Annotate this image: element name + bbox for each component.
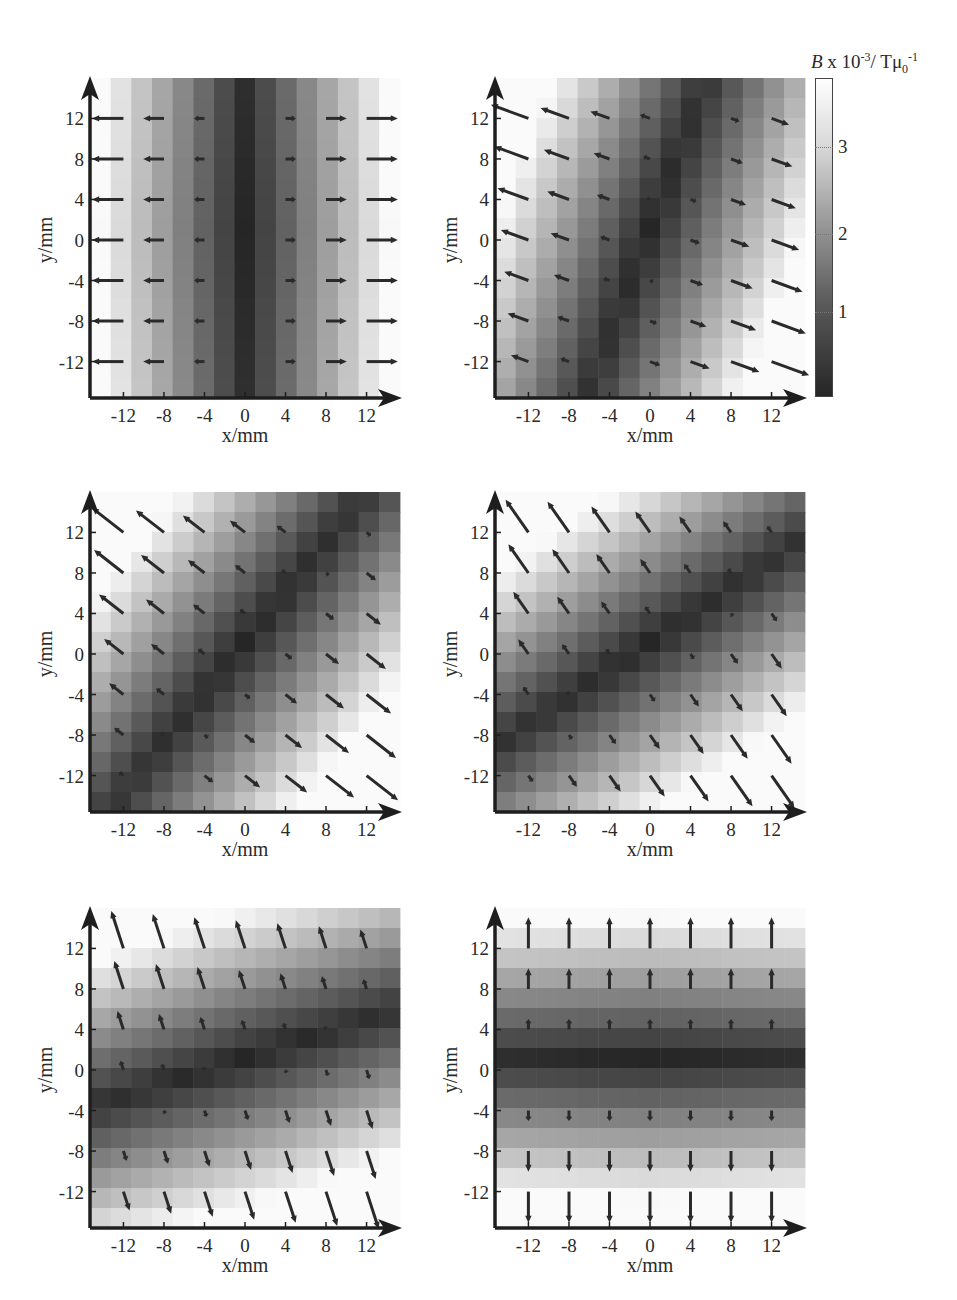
x-axis-label: x/mm (222, 838, 269, 860)
plot-panel-1: -12-12-8-8-4-40044881212x/mmy/mm (30, 63, 420, 463)
y-tick-label: -12 (464, 352, 489, 373)
colorbar-title-exponent2: -1 (908, 50, 918, 64)
colorbar-title-unit: / Tμ (871, 51, 902, 72)
y-axis-label: y/mm (34, 630, 57, 677)
x-tick-label: 12 (762, 405, 781, 426)
y-tick-label: -8 (473, 1141, 489, 1162)
x-tick-label: 8 (726, 819, 736, 840)
y-tick-label: -8 (68, 311, 84, 332)
y-tick-label: 0 (75, 230, 85, 251)
x-tick-label: -12 (111, 405, 136, 426)
x-tick-label: -4 (602, 405, 618, 426)
y-axis-label: y/mm (439, 630, 462, 677)
y-tick-label: 0 (480, 1060, 490, 1081)
y-tick-label: -12 (59, 352, 84, 373)
x-tick-label: -12 (516, 1235, 541, 1256)
y-tick-label: 8 (480, 149, 490, 170)
heatmap (495, 492, 805, 813)
y-axis-label: y/mm (34, 1046, 57, 1093)
y-tick-label: -8 (473, 725, 489, 746)
x-axis-label: x/mm (222, 1254, 269, 1276)
x-tick-label: -12 (516, 405, 541, 426)
plot-panel-3: -12-12-8-8-4-40044881212x/mmy/mm (30, 477, 420, 877)
plot-panel-5: -12-12-8-8-4-40044881212x/mmy/mm (30, 893, 420, 1293)
x-tick-label: 8 (726, 1235, 736, 1256)
colorbar-title-subscript: 0 (902, 62, 908, 76)
y-tick-label: 12 (470, 938, 489, 959)
x-tick-label: 4 (281, 819, 291, 840)
y-tick-label: 8 (480, 563, 490, 584)
y-tick-label: 4 (75, 1019, 85, 1040)
heatmap (495, 78, 805, 399)
x-tick-label: 0 (240, 819, 250, 840)
x-tick-label: 8 (321, 405, 331, 426)
x-tick-label: -12 (111, 1235, 136, 1256)
y-tick-label: 0 (75, 1060, 85, 1081)
x-tick-label: 0 (645, 1235, 655, 1256)
plot-panel-2: -12-12-8-8-4-40044881212x/mmy/mm (435, 63, 825, 463)
y-tick-label: 4 (480, 189, 490, 210)
x-tick-label: 4 (686, 1235, 696, 1256)
plot-panel-4: -12-12-8-8-4-40044881212x/mmy/mm (435, 477, 825, 877)
x-tick-label: 8 (726, 405, 736, 426)
x-tick-label: 0 (240, 1235, 250, 1256)
x-tick-label: 4 (686, 819, 696, 840)
y-tick-label: -4 (473, 1101, 489, 1122)
x-axis-label: x/mm (627, 424, 674, 446)
y-axis-label: y/mm (439, 1046, 462, 1093)
x-tick-label: -4 (197, 405, 213, 426)
y-tick-label: 12 (65, 522, 84, 543)
y-tick-label: 0 (75, 644, 85, 665)
x-tick-label: 4 (281, 405, 291, 426)
y-tick-label: -4 (473, 685, 489, 706)
y-tick-label: 12 (470, 108, 489, 129)
y-tick-label: -12 (59, 766, 84, 787)
y-axis-label: y/mm (439, 216, 462, 263)
x-axis-label: x/mm (222, 424, 269, 446)
y-tick-label: 4 (480, 603, 490, 624)
y-tick-label: -4 (68, 685, 84, 706)
y-tick-label: 8 (480, 979, 490, 1000)
x-tick-label: 8 (321, 819, 331, 840)
x-tick-label: 12 (357, 405, 376, 426)
x-tick-label: 8 (321, 1235, 331, 1256)
y-tick-label: -12 (464, 766, 489, 787)
y-axis-label: y/mm (34, 216, 57, 263)
x-tick-label: -12 (516, 819, 541, 840)
y-tick-label: 4 (480, 1019, 490, 1040)
y-tick-label: -8 (473, 311, 489, 332)
y-tick-label: -4 (68, 1101, 84, 1122)
y-tick-label: -12 (464, 1182, 489, 1203)
colorbar-tick-3: 3 (838, 137, 848, 156)
y-tick-label: 8 (75, 149, 85, 170)
y-tick-label: 8 (75, 563, 85, 584)
heatmap (90, 908, 400, 1229)
colorbar-tick-1: 1 (838, 302, 848, 321)
x-tick-label: 0 (240, 405, 250, 426)
x-tick-label: -8 (561, 405, 577, 426)
plot-panel-6: -12-12-8-8-4-40044881212x/mmy/mm (435, 893, 825, 1293)
x-tick-label: -8 (561, 819, 577, 840)
y-tick-label: 12 (65, 108, 84, 129)
x-tick-label: 4 (281, 1235, 291, 1256)
x-tick-label: -4 (197, 819, 213, 840)
colorbar-title-scale: x 10 (823, 51, 861, 72)
x-axis-label: x/mm (627, 1254, 674, 1276)
y-tick-label: -12 (59, 1182, 84, 1203)
y-tick-label: 0 (480, 644, 490, 665)
x-tick-label: -4 (602, 819, 618, 840)
y-tick-label: -4 (68, 271, 84, 292)
y-tick-label: 4 (75, 603, 85, 624)
heatmap (495, 908, 805, 1229)
y-tick-label: 8 (75, 979, 85, 1000)
y-tick-label: -8 (68, 1141, 84, 1162)
x-tick-label: -12 (111, 819, 136, 840)
x-tick-label: -8 (156, 1235, 172, 1256)
y-tick-label: -4 (473, 271, 489, 292)
colorbar-title-exponent: -3 (861, 50, 871, 64)
x-tick-label: 12 (357, 819, 376, 840)
x-tick-label: -4 (602, 1235, 618, 1256)
x-tick-label: 12 (762, 819, 781, 840)
y-tick-label: -8 (68, 725, 84, 746)
x-tick-label: 12 (762, 1235, 781, 1256)
